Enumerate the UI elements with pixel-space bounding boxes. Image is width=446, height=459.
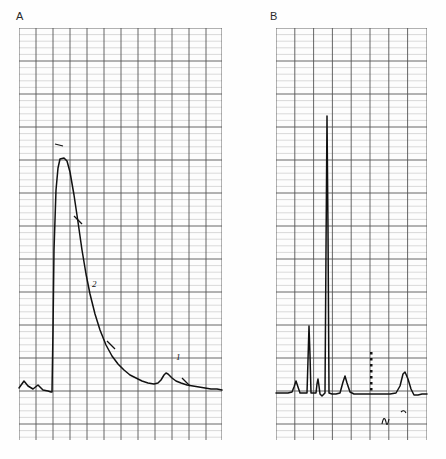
panel-b-trace bbox=[0, 0, 446, 459]
figure-caption-strip bbox=[0, 443, 446, 459]
panel-b-trace-line bbox=[276, 116, 427, 396]
panel-b-dotted-marker bbox=[370, 352, 373, 391]
figure-chromatogram-traces: A bbox=[0, 0, 446, 459]
panel-b-hand-marks bbox=[382, 411, 406, 425]
